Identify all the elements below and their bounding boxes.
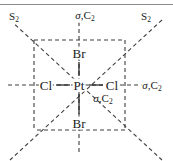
diagonal-axes [10,20,162,160]
symmetry-text-right: ,C [148,79,158,91]
symmetry-subscript-diagonal: 2 [109,97,113,106]
atom-label-bromine-top: Br [72,47,87,60]
symmetry-label-s2-top-left: S2 [8,11,20,24]
symmetry-text-top: ,C [81,9,91,21]
symmetry-label-sigma-c2-top: σ,C2 [74,10,95,23]
atom-label-center: Pt [73,79,86,92]
atom-label-chlorine-right: Cl [105,79,119,92]
symmetry-subscript-top: 2 [91,14,95,23]
symmetry-subscript-right: 2 [158,84,162,93]
symmetry-label-sigma-c2-right: σ,C2 [141,80,162,93]
atom-label-chlorine-left: Cl [39,79,53,92]
symmetry-label-s2-top-right: S2 [140,11,152,24]
symmetry-subscript-s2-top-left: 2 [15,15,19,24]
symmetry-text-diagonal: ,C [99,92,109,104]
symmetry-subscript-s2-top-right: 2 [147,15,151,24]
symmetry-label-sigma-c2-diagonal: σ,C2 [92,93,113,106]
symmetry-diagram-figure: Pt Br Br Cl Cl S2 σ,C2 S2 σ,C2 σ,C2 [0,0,173,161]
atom-label-bromine-bottom: Br [72,117,87,130]
